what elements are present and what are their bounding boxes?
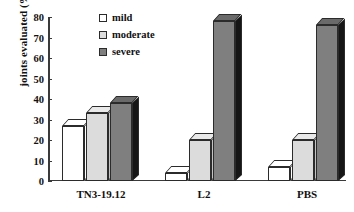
y-tick-mark [48, 79, 52, 80]
bar-mild [268, 167, 290, 181]
legend-item-mild: mild [99, 10, 155, 25]
y-tick-mark [48, 120, 52, 121]
bar-moderate [292, 140, 314, 181]
bar-side-face [338, 19, 345, 181]
bar-moderate [189, 140, 211, 181]
bar-side-face [235, 15, 242, 181]
bar-front-face [165, 173, 187, 181]
y-tick-mark [48, 181, 52, 182]
bar-front-face [62, 126, 84, 181]
bar-mild [62, 126, 84, 181]
bar-severe [316, 25, 338, 181]
bar-front-face [292, 140, 314, 181]
y-tick-mark [48, 17, 52, 18]
bar-moderate [86, 113, 108, 181]
x-axis-label: L2 [198, 188, 211, 200]
bar-group [268, 17, 346, 181]
y-tick-label: 30 [22, 114, 44, 125]
y-tick-label: 40 [22, 94, 44, 105]
bar-group [165, 17, 243, 181]
y-tick-mark [48, 58, 52, 59]
y-tick-label: 50 [22, 73, 44, 84]
y-tick-mark [48, 140, 52, 141]
x-axis-label: TN3-19.12 [76, 188, 125, 200]
legend-item-moderate: moderate [99, 27, 155, 42]
y-tick-label: 80 [22, 12, 44, 23]
bar-front-face [213, 21, 235, 181]
bar-front-face [110, 103, 132, 181]
legend-swatch-severe-icon [99, 48, 107, 56]
plot-area: 01020304050607080 [48, 17, 346, 181]
bar-front-face [189, 140, 211, 181]
legend-swatch-moderate-icon [99, 31, 107, 39]
y-tick-mark [48, 161, 52, 162]
chart-legend: mild moderate severe [99, 10, 155, 61]
y-tick-label: 20 [22, 135, 44, 146]
bar-mild [165, 173, 187, 181]
y-tick-mark [48, 38, 52, 39]
legend-label-severe: severe [112, 46, 140, 57]
legend-item-severe: severe [99, 44, 155, 59]
y-tick-label: 70 [22, 32, 44, 43]
legend-label-moderate: moderate [112, 29, 155, 40]
y-tick-label: 0 [22, 176, 44, 187]
y-tick-mark [48, 99, 52, 100]
y-tick-label: 10 [22, 155, 44, 166]
x-axis-label: PBS [297, 188, 317, 200]
bar-severe [110, 103, 132, 181]
bar-severe [213, 21, 235, 181]
bar-chart: joints evaluated (%) 01020304050607080 T… [0, 0, 354, 212]
bar-front-face [316, 25, 338, 181]
bar-front-face [268, 167, 290, 181]
y-tick-label: 60 [22, 53, 44, 64]
bar-side-face [132, 97, 139, 181]
bar-front-face [86, 113, 108, 181]
legend-swatch-mild-icon [99, 14, 107, 22]
legend-label-mild: mild [112, 12, 132, 23]
